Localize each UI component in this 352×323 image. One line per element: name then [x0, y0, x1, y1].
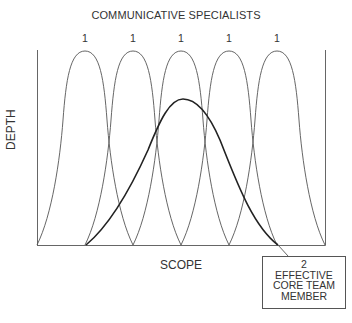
specialist-curve-2: [85, 51, 181, 245]
callout-number: 2: [263, 259, 345, 270]
y-axis-label: DEPTH: [4, 109, 18, 150]
callout-line-2: CORE TEAM: [263, 280, 345, 291]
specialist-curves: [37, 51, 325, 245]
x-axis-label: SCOPE: [160, 258, 202, 272]
specialist-curve-3: [133, 51, 229, 245]
specialist-curve-5: [229, 51, 325, 245]
callout-leader-line: [278, 245, 288, 256]
specialist-curve-4: [181, 51, 277, 245]
callout-box: 2 EFFECTIVE CORE TEAM MEMBER: [262, 256, 346, 309]
callout-line-3: MEMBER: [263, 291, 345, 302]
specialist-curve-1: [37, 51, 133, 245]
